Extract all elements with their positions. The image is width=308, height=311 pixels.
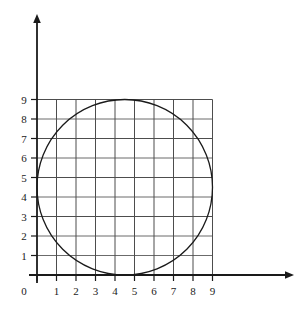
y-tick-label-4: 4 bbox=[21, 191, 27, 203]
coordinate-grid-figure: 0 1 2 3 4 5 6 7 8 9 1 2 3 4 5 6 7 8 9 bbox=[0, 0, 308, 311]
y-tick-label-3: 3 bbox=[21, 211, 27, 223]
x-tick-label-4: 4 bbox=[112, 285, 118, 297]
x-tick-label-5: 5 bbox=[132, 285, 138, 297]
y-tick-label-2: 2 bbox=[21, 230, 27, 242]
x-tick-label-2: 2 bbox=[73, 285, 79, 297]
y-tick-label-9: 9 bbox=[21, 94, 27, 106]
y-tick-label-1: 1 bbox=[21, 250, 27, 262]
y-axis-tick-labels: 1 2 3 4 5 6 7 8 9 bbox=[21, 94, 27, 262]
x-tick-label-6: 6 bbox=[151, 285, 157, 297]
x-tick-label-9: 9 bbox=[210, 285, 216, 297]
y-tick-label-8: 8 bbox=[21, 113, 27, 125]
y-tick-label-7: 7 bbox=[21, 133, 27, 145]
x-tick-label-0: 0 bbox=[21, 285, 27, 297]
x-tick-label-7: 7 bbox=[171, 285, 177, 297]
y-tick-label-5: 5 bbox=[21, 172, 27, 184]
x-tick-label-1: 1 bbox=[54, 285, 60, 297]
x-tick-label-8: 8 bbox=[190, 285, 196, 297]
y-tick-label-6: 6 bbox=[21, 152, 27, 164]
x-tick-label-3: 3 bbox=[93, 285, 99, 297]
